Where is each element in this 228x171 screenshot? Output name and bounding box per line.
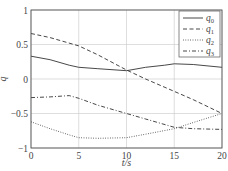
y-axis-label: q <box>0 77 8 82</box>
y-tick-label: −1 <box>18 144 28 154</box>
y-axis-ticks: 10.50−0.5−1 <box>11 6 28 154</box>
line-chart: 05101520 10.50−0.5−1 t/s q q0q1q2q3 <box>0 0 228 171</box>
y-tick-label: 0 <box>23 75 28 85</box>
y-tick-label: −0.5 <box>11 109 28 119</box>
y-tick-label: 1 <box>23 6 28 16</box>
x-tick-label: 20 <box>217 151 227 161</box>
x-tick-label: 5 <box>76 151 81 161</box>
x-tick-label: 15 <box>170 151 180 161</box>
y-tick-label: 0.5 <box>16 40 28 50</box>
legend: q0q1q2q3 <box>179 11 220 57</box>
x-axis-label: t/s <box>122 157 132 168</box>
x-tick-label: 0 <box>29 151 34 161</box>
